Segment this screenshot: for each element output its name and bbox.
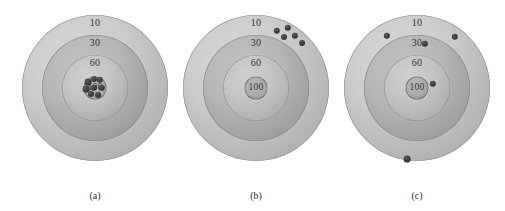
target-a-board: 10 30 60 100 xyxy=(22,8,168,168)
target-a-label-10: 10 xyxy=(90,18,101,28)
target-b: 10 30 60 100 (b) xyxy=(183,8,329,168)
target-c: 10 30 60 100 (c) xyxy=(344,8,490,168)
shot-marker xyxy=(299,40,305,46)
target-b-label-30: 30 xyxy=(251,38,262,48)
target-b-label-10: 10 xyxy=(251,18,262,28)
target-b-label-100: 100 xyxy=(248,83,263,93)
target-b-board: 10 30 60 100 xyxy=(183,8,329,168)
target-a-label-60: 60 xyxy=(90,58,101,68)
shot-marker xyxy=(88,91,94,97)
target-c-label-30: 30 xyxy=(412,38,423,48)
shot-marker xyxy=(404,156,411,163)
target-c-label-100: 100 xyxy=(409,83,424,93)
target-a: 10 30 60 100 (a) xyxy=(22,8,168,168)
targets-figure: 10 30 60 100 (a) 10 30 60 100 (b) xyxy=(0,0,505,211)
target-a-label-30: 30 xyxy=(90,38,101,48)
shot-marker xyxy=(95,92,101,98)
target-c-board: 10 30 60 100 xyxy=(344,8,490,168)
target-c-label-10: 10 xyxy=(412,18,423,28)
target-a-caption: (a) xyxy=(22,191,168,201)
target-c-label-60: 60 xyxy=(412,58,423,68)
target-b-label-60: 60 xyxy=(251,58,262,68)
target-b-caption: (b) xyxy=(183,191,329,201)
target-c-caption: (c) xyxy=(344,191,490,201)
shot-marker xyxy=(281,34,287,40)
